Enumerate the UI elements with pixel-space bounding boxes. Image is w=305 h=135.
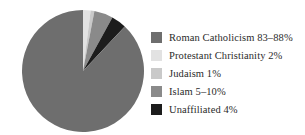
legend-item-protestant-christianity: Protestant Christianity 2% <box>151 46 305 64</box>
pie-chart-figure: Roman Catholicism 83–88% Protestant Chri… <box>0 0 305 135</box>
chart-legend: Roman Catholicism 83–88% Protestant Chri… <box>151 28 305 118</box>
legend-item-roman-catholicism: Roman Catholicism 83–88% <box>151 28 305 46</box>
legend-item-judaism: Judaism 1% <box>151 64 305 82</box>
swatch-protestant-christianity <box>151 50 162 61</box>
legend-label-roman-catholicism: Roman Catholicism 83–88% <box>169 32 293 43</box>
swatch-unaffiliated <box>151 104 162 115</box>
swatch-judaism <box>151 68 162 79</box>
pie-svg <box>18 6 148 135</box>
legend-item-unaffiliated: Unaffiliated 4% <box>151 100 305 118</box>
swatch-roman-catholicism <box>151 32 162 43</box>
legend-label-islam: Islam 5–10% <box>169 86 226 97</box>
pie-chart-graphic <box>18 6 148 135</box>
legend-label-unaffiliated: Unaffiliated 4% <box>169 104 238 115</box>
legend-label-protestant-christianity: Protestant Christianity 2% <box>169 50 282 61</box>
legend-item-islam: Islam 5–10% <box>151 82 305 100</box>
legend-label-judaism: Judaism 1% <box>169 68 221 79</box>
swatch-islam <box>151 86 162 97</box>
pie-slices <box>22 10 144 132</box>
